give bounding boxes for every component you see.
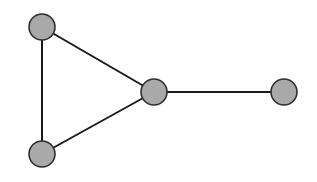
- graph-node-n2: [29, 141, 55, 167]
- graph-node-n4: [271, 79, 297, 105]
- graph-diagram: [0, 0, 317, 182]
- edge-n1-n3: [42, 27, 154, 92]
- edge-n2-n3: [42, 92, 154, 154]
- nodes-layer: [29, 14, 297, 167]
- graph-node-n1: [29, 14, 55, 40]
- graph-node-n3: [141, 79, 167, 105]
